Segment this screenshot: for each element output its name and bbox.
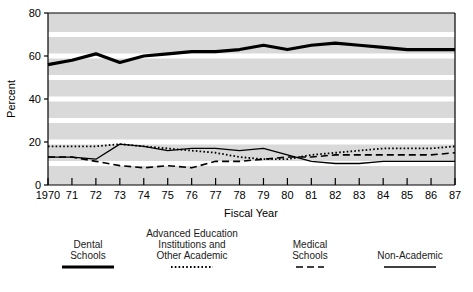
x-tick-label: 74	[138, 189, 150, 201]
x-tick-label: 85	[401, 189, 413, 201]
x-tick-label: 86	[425, 189, 437, 201]
legend-label: Dental	[74, 239, 103, 250]
y-axis-title: Percent	[5, 80, 17, 118]
x-tick-label: 82	[329, 189, 341, 201]
x-tick-label: 84	[377, 189, 389, 201]
legend-label: Medical	[293, 239, 327, 250]
x-tick-label: 75	[162, 189, 174, 201]
legend-label: Other Academic	[156, 250, 227, 261]
legend-label: Schools	[70, 250, 106, 261]
x-tick-label: 76	[186, 189, 198, 201]
x-tick-label: 83	[353, 189, 365, 201]
x-tick-label: 1970	[36, 189, 60, 201]
y-tick-label: 40	[29, 93, 41, 105]
x-tick-label: 79	[257, 189, 269, 201]
chart-figure: 020406080 197071727374757677787980818283…	[0, 0, 473, 292]
x-tick-label: 80	[281, 189, 293, 201]
x-axis-title: Fiscal Year	[224, 207, 278, 219]
legend-label: Advanced Education	[146, 228, 238, 239]
line-chart: 020406080 197071727374757677787980818283…	[0, 0, 473, 292]
y-tick-label: 20	[29, 136, 41, 148]
legend-label: Schools	[292, 250, 328, 261]
x-tick-label: 71	[66, 189, 78, 201]
gridlines	[48, 35, 455, 164]
x-tick-label: 81	[305, 189, 317, 201]
y-tick-label: 80	[29, 7, 41, 19]
x-tick-label: 73	[114, 189, 126, 201]
legend-label: Non-Academic	[377, 250, 443, 261]
x-tick-label: 72	[90, 189, 102, 201]
legend-label: Institutions and	[158, 239, 225, 250]
x-tick-label: 77	[209, 189, 221, 201]
x-tick-label: 87	[449, 189, 461, 201]
x-tick-label: 78	[233, 189, 245, 201]
y-tick-label: 60	[29, 50, 41, 62]
